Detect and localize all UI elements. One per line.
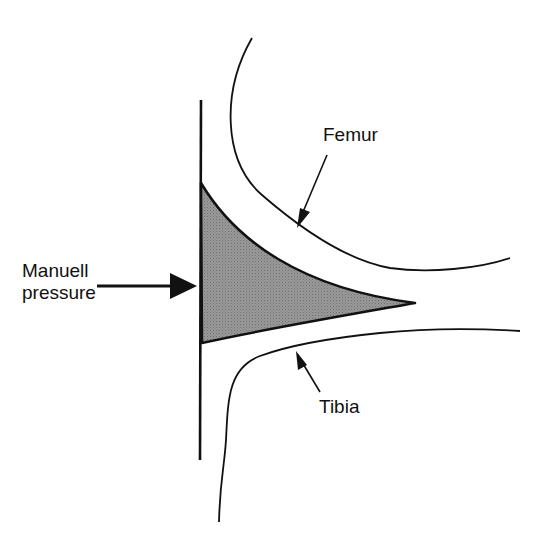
pressure-plate-line: [200, 100, 201, 460]
meniscus-wedge: [201, 183, 415, 343]
manual-pressure-label-line1: Manuell: [22, 260, 96, 282]
manual-pressure-label-line2: pressure: [22, 282, 96, 304]
femur-pointer-head-icon: [297, 208, 310, 228]
tibia-pointer-line: [302, 362, 320, 392]
manual-pressure-label: Manuell pressure: [22, 260, 96, 304]
femur-pointer-line: [303, 155, 327, 212]
femur-label: Femur: [323, 124, 378, 146]
femur-outline: [231, 38, 510, 270]
tibia-label: Tibia: [319, 396, 359, 418]
pressure-arrow-head-icon: [170, 273, 197, 299]
tibia-outline: [219, 329, 520, 522]
